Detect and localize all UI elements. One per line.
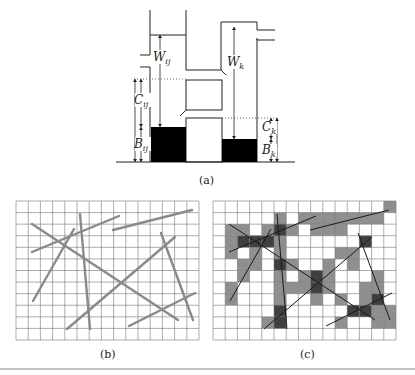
shaded-cell-dark: [347, 305, 359, 317]
figure-canvas: Wij Wk Cij Bij Ck Bk (a) (b) (c): [0, 0, 415, 375]
shaded-cell: [335, 247, 347, 259]
center-wall: [186, 10, 221, 70]
middle-box-lower: [186, 118, 222, 162]
caption-a: (a): [199, 174, 214, 187]
block-bij: [151, 127, 186, 162]
shaded-cell: [323, 213, 335, 225]
left-upper-wall: [140, 10, 150, 55]
shaded-cell: [323, 271, 335, 283]
shaded-cell: [311, 294, 323, 306]
shaded-cell: [323, 259, 335, 271]
right-top-edge: [221, 22, 257, 30]
middle-box-slant: [180, 110, 186, 116]
shaded-cell: [335, 224, 347, 236]
caption-c: (c): [300, 348, 315, 361]
shaded-cell: [225, 236, 237, 248]
middle-box-upper: [186, 80, 222, 110]
segment-line: [33, 229, 74, 301]
segment-line: [113, 210, 192, 230]
shaded-cell: [250, 259, 262, 271]
caption-b: (b): [100, 348, 116, 361]
shaded-cell: [359, 213, 371, 225]
segment-line: [32, 224, 178, 320]
shaded-cell: [298, 282, 310, 294]
shaded-cell: [274, 282, 286, 294]
shaded-cell: [286, 282, 298, 294]
right-upper-ledge: [257, 39, 275, 40]
shaded-cell: [274, 271, 286, 283]
shaded-cell: [311, 224, 323, 236]
shaded-cell-dark: [274, 224, 286, 236]
shaded-cell: [347, 259, 359, 271]
shaded-cell: [359, 294, 371, 306]
shaded-cell: [237, 259, 249, 271]
shaded-cell: [359, 282, 371, 294]
shaded-cell: [274, 213, 286, 225]
shaded-cell: [311, 213, 323, 225]
shaded-cell: [372, 305, 384, 317]
center-right-wall: [221, 22, 226, 75]
segment-line: [129, 293, 195, 326]
segment-line: [229, 224, 375, 320]
block-bk: [222, 139, 257, 162]
